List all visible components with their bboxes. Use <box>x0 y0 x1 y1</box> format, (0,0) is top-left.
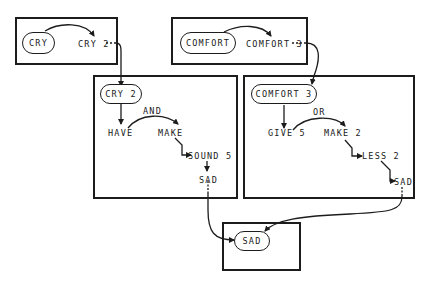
node-comfort3-head-label: COMFORT 3 <box>256 89 313 99</box>
node-give5: GIVE 5 <box>268 128 306 138</box>
node-cry-label: CRY <box>29 38 48 48</box>
node-cry2-head: CRY 2 <box>100 84 142 104</box>
node-cry2-output: CRY 2 <box>78 39 110 49</box>
node-have: HAVE <box>108 128 133 138</box>
node-cry2-head-label: CRY 2 <box>105 89 137 99</box>
node-sad-final: SAD <box>234 231 270 251</box>
node-sad-final-label: SAD <box>243 236 262 246</box>
connector-and: AND <box>143 106 162 116</box>
node-sound5: SOUND 5 <box>188 151 232 161</box>
node-comfort3-head: COMFORT 3 <box>251 84 317 104</box>
node-sad-cry2: SAD <box>199 175 218 185</box>
node-comfort-label: COMFORT <box>186 38 230 48</box>
node-make: MAKE <box>158 128 183 138</box>
node-sad-comfort3: SAD <box>394 177 413 187</box>
node-comfort3-output: COMFORT 3 <box>246 39 303 49</box>
node-make2: MAKE 2 <box>324 128 362 138</box>
connector-or: OR <box>313 107 326 117</box>
node-comfort: COMFORT <box>180 32 236 54</box>
node-less2: LESS 2 <box>362 151 400 161</box>
node-cry: CRY <box>22 32 55 54</box>
